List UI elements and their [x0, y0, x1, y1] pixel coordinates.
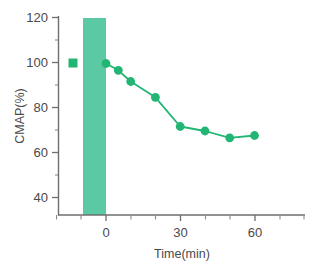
x-tick-label-0: 0	[102, 225, 109, 240]
x-tick-label-60: 60	[248, 225, 262, 240]
data-point-marker	[225, 133, 234, 142]
data-point-marker	[126, 77, 135, 86]
infusion-band	[83, 18, 106, 215]
y-tick-label-60: 60	[34, 145, 48, 160]
y-tick-label-80: 80	[34, 100, 48, 115]
cmap-time-chart: 120 100 80 60 40 0 30 60 CMAP(%) Time(mi…	[0, 0, 313, 275]
data-point-markers	[102, 59, 259, 142]
y-tick-label-40: 40	[34, 190, 48, 205]
y-tick-label-120: 120	[26, 10, 48, 25]
data-point-marker	[114, 66, 123, 75]
x-axis-major-ticks	[106, 215, 255, 221]
data-point-marker-baseline	[69, 59, 78, 68]
data-point-marker	[250, 131, 259, 140]
data-point-marker	[102, 59, 111, 68]
data-point-marker	[151, 93, 160, 102]
y-axis-title: CMAP(%)	[13, 88, 27, 144]
y-tick-label-100: 100	[26, 55, 48, 70]
x-axis-title: Time(min)	[154, 247, 210, 261]
y-axis-major-ticks	[52, 18, 58, 198]
chart-canvas: 120 100 80 60 40 0 30 60 CMAP(%) Time(mi…	[0, 0, 313, 275]
x-tick-label-30: 30	[173, 225, 187, 240]
data-point-marker	[201, 127, 210, 136]
data-point-marker	[176, 122, 185, 131]
